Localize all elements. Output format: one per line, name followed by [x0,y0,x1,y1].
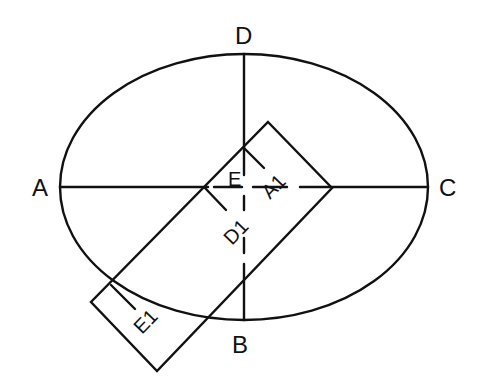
label-e1: E1 [129,305,162,338]
label-a1: A1 [257,170,290,203]
trammel-strip-rectangle [91,122,332,371]
ellipse-construction-diagram: D A C B E A1 D1 E1 [0,0,477,386]
label-e: E [228,168,241,190]
diagram-canvas: D A C B E A1 D1 E1 [0,0,477,386]
label-d: D [235,22,252,49]
label-a: A [32,174,48,201]
label-c: C [439,174,456,201]
label-b: B [232,331,248,358]
label-d1: D1 [219,215,253,249]
